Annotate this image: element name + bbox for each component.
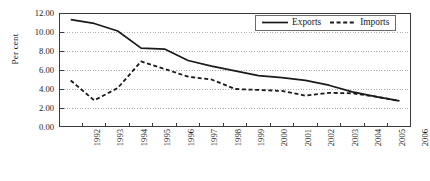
- series-line-exports: [71, 20, 400, 101]
- x-tick-label: 1998: [234, 129, 243, 173]
- x-tick-label: 2001: [304, 129, 313, 173]
- x-tick-label: 1996: [187, 129, 196, 173]
- y-tick-label: 6.00: [20, 66, 54, 75]
- legend-entry-exports: Exports: [262, 18, 321, 27]
- y-tick-label: 8.00: [20, 47, 54, 56]
- x-tick-label: 1993: [116, 129, 125, 173]
- x-tick-label: 1994: [140, 129, 149, 173]
- y-tick-label: 2.00: [20, 104, 54, 113]
- y-tick-label: 10.00: [20, 28, 54, 37]
- chart-legend: ExportsImports: [255, 15, 396, 31]
- x-tick-label: 1997: [210, 129, 219, 173]
- x-tick-label: 2003: [351, 129, 360, 173]
- y-tick-label: 4.00: [20, 85, 54, 94]
- x-tick-label: 1995: [163, 129, 172, 173]
- x-tick-label: 2000: [280, 129, 289, 173]
- x-tick-label: 2005: [398, 129, 407, 173]
- legend-line-swatch-exports: [262, 19, 288, 26]
- x-tick-label: 1992: [93, 129, 102, 173]
- x-tick-label: 2002: [327, 129, 336, 173]
- legend-entry-imports: Imports: [330, 18, 389, 27]
- y-axis-title: Per cent: [10, 14, 20, 84]
- x-tick-label: 1999: [257, 129, 266, 173]
- legend-label: Exports: [292, 18, 321, 27]
- x-axis-tick-labels: 1992199319941995199619971998199920002001…: [59, 129, 411, 181]
- x-tick-label: 2004: [374, 129, 383, 173]
- y-axis-tick-labels: 0.002.004.006.008.0010.0012.00: [20, 0, 54, 181]
- x-tick-label: 2006: [421, 129, 430, 173]
- y-tick-label: 12.00: [20, 9, 54, 18]
- legend-line-swatch-imports: [330, 19, 356, 26]
- series-line-imports: [71, 61, 400, 100]
- legend-label: Imports: [360, 18, 389, 27]
- y-tick-label: 0.00: [20, 123, 54, 132]
